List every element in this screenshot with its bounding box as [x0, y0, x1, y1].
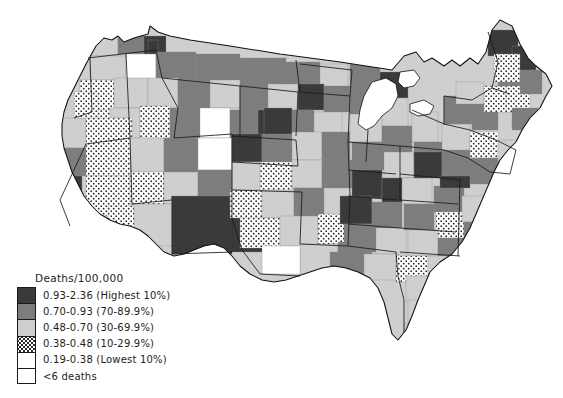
legend-label: 0.48-0.70 (30-69.9%): [43, 322, 154, 333]
legend-swatch-no-data: [17, 368, 36, 384]
legend-label: 0.19-0.38 (Lowest 10%): [43, 354, 167, 365]
legend-label: <6 deaths: [43, 371, 97, 382]
legend-label: 0.70-0.93 (70-89.9%): [43, 306, 154, 317]
legend-label: 0.93-2.36 (Highest 10%): [43, 290, 170, 301]
legend-row: 0.93-2.36 (Highest 10%): [17, 287, 207, 303]
legend-row: 0.38-0.48 (10-29.9%): [17, 336, 207, 352]
legend-swatch-10-29: [17, 336, 36, 352]
legend-swatch-lowest-10: [17, 352, 36, 368]
legend-rows: 0.93-2.36 (Highest 10%) 0.70-0.93 (70-89…: [17, 287, 207, 384]
legend-label: 0.38-0.48 (10-29.9%): [43, 338, 154, 349]
legend-row: <6 deaths: [17, 368, 207, 384]
legend-row: 0.19-0.38 (Lowest 10%): [17, 352, 207, 368]
legend-swatch-highest-10: [17, 287, 36, 303]
legend-row: 0.48-0.70 (30-69.9%): [17, 319, 207, 335]
legend-title: Deaths/100,000: [35, 272, 207, 284]
legend-row: 0.70-0.93 (70-89.9%): [17, 303, 207, 319]
legend-swatch-30-69: [17, 319, 36, 335]
map-legend: Deaths/100,000 0.93-2.36 (Highest 10%) 0…: [17, 272, 207, 384]
legend-swatch-70-89: [17, 303, 36, 319]
figure-canvas: Deaths/100,000 0.93-2.36 (Highest 10%) 0…: [0, 0, 563, 398]
